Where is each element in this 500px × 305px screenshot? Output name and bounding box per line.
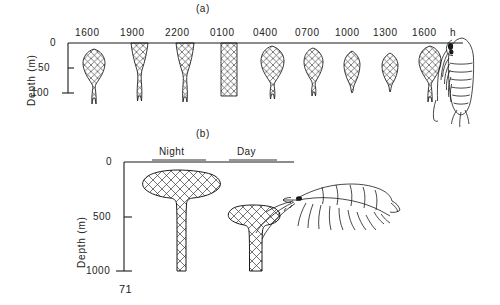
panel-a-profiles [83,43,441,104]
panel-a-profile-0100 [221,43,237,96]
figure-root: (a) (b) Depth (m) Depth (m) 0 50 100 160… [0,0,500,305]
shrimp-lateral-drawing [256,184,400,239]
panel-a-profile-1300 [382,53,398,92]
panel-a-profile-1900 [131,43,148,101]
panel-a-profile-0400 [261,46,284,99]
panel-a-profile-1000 [344,51,360,93]
amphipod-dorsal-drawing [433,38,473,127]
panel-b-profile-night [143,170,221,271]
panel-a-profile-1600a [83,49,105,104]
panel-a-profile-0700 [304,48,323,96]
panel-a-profile-2200 [176,43,194,102]
panel-b-profile-day [228,205,280,271]
figure-vector-layer [0,0,500,305]
panel-b-profiles [143,170,280,271]
